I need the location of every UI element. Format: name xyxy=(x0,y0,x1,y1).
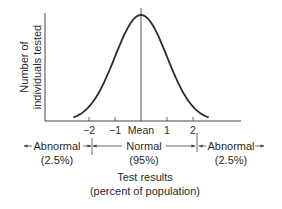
region-left-label: Abnormal xyxy=(33,140,80,152)
region-center-label: Normal xyxy=(126,140,161,152)
region-right-label: Abnormal xyxy=(207,140,254,152)
x-tick-label: −1 xyxy=(109,124,121,136)
normal-distribution-diagram: −2−1Mean12 Number of individuals tested … xyxy=(0,0,282,209)
y-axis-label-line1: Number of xyxy=(18,40,30,92)
x-tick-label: 2 xyxy=(190,124,196,136)
y-axis-label-line2: individuals tested xyxy=(31,25,43,109)
x-axis-label-line2: (percent of population) xyxy=(90,185,200,197)
region-right-percent: (2.5%) xyxy=(215,154,247,166)
x-tick-label: Mean xyxy=(128,124,154,136)
region-left-percent: (2.5%) xyxy=(41,154,73,166)
x-tick-label: −2 xyxy=(83,124,95,136)
x-axis-label-line1: Test results xyxy=(117,171,173,183)
x-tick-label: 1 xyxy=(164,124,170,136)
region-center-percent: (95%) xyxy=(129,154,158,166)
